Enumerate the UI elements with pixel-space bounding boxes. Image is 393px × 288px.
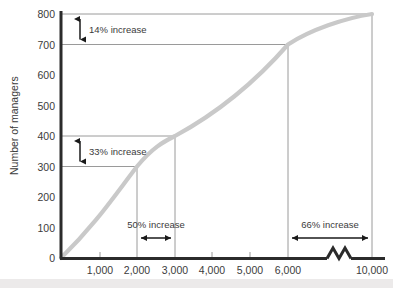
annotation-50-label: 50% increase [127, 219, 185, 230]
y-tick-100: 100 [37, 222, 55, 234]
x-tick-10000: 10,000 [356, 264, 388, 276]
y-tick-500: 500 [37, 100, 55, 112]
y-tick-700: 700 [37, 39, 55, 51]
managers-growth-chart: 800 700 600 500 400 300 200 100 0 Number… [0, 0, 393, 288]
chart-container: 800 700 600 500 400 300 200 100 0 Number… [0, 0, 393, 288]
y-tick-200: 200 [37, 191, 55, 203]
x-tick-1000: 1,000 [87, 264, 113, 276]
y-tick-300: 300 [37, 161, 55, 173]
y-axis-tick-labels: 800 700 600 500 400 300 200 100 0 [37, 8, 55, 264]
annotation-14-label: 14% increase [89, 24, 147, 35]
x-tick-2000: 2,000 [124, 264, 150, 276]
y-axis-title: Number of managers [8, 76, 20, 175]
y-tick-800: 800 [37, 8, 55, 20]
bottom-band [0, 279, 393, 288]
y-tick-400: 400 [37, 130, 55, 142]
annotation-33-label: 33% increase [89, 146, 147, 157]
y-tick-600: 600 [37, 69, 55, 81]
x-tick-3000: 3,000 [162, 264, 188, 276]
chart-background [0, 0, 393, 288]
x-tick-4000: 4,000 [199, 264, 225, 276]
x-tick-6000: 6,000 [275, 264, 301, 276]
annotation-66-label: 66% increase [301, 219, 359, 230]
x-tick-5000: 5,000 [237, 264, 263, 276]
y-tick-0: 0 [49, 252, 55, 264]
